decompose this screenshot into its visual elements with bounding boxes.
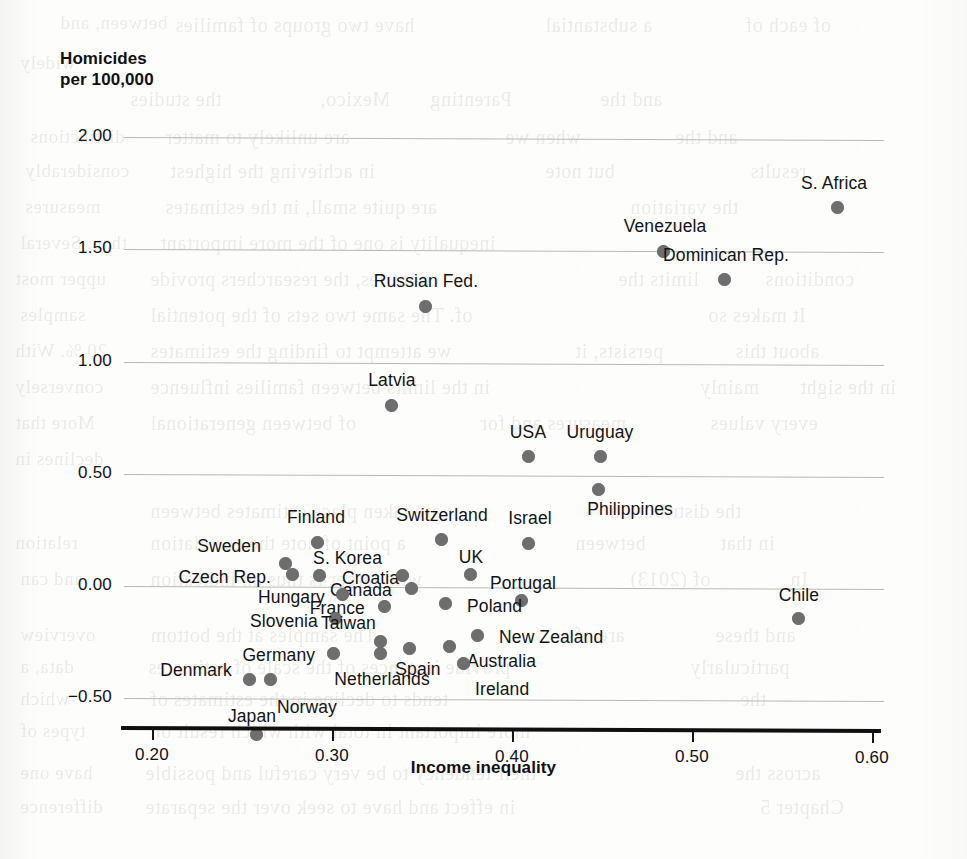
y-axis-tick-label: 0.00 <box>42 575 112 595</box>
data-point-label: Netherlands <box>334 669 429 690</box>
data-point-label: UK <box>459 547 484 568</box>
data-point-label: Uruguay <box>567 422 634 443</box>
chart-plot-area: Homicides per 100,000 2.001.501.000.500.… <box>0 0 967 859</box>
data-point <box>374 635 387 648</box>
data-point-label: Slovenia <box>250 611 318 632</box>
data-point-label: Sweden <box>197 536 261 557</box>
x-axis-tick-mark <box>692 731 694 742</box>
y-axis-tick-label: 0.50 <box>42 463 112 483</box>
data-point-label: Dominican Rep. <box>663 245 789 266</box>
gridline <box>124 362 884 366</box>
x-axis-tick-mark <box>152 729 154 740</box>
data-point-label: Philippines <box>587 499 673 520</box>
data-point <box>443 640 456 653</box>
data-point <box>313 569 326 582</box>
y-axis-tick-label: −0.50 <box>42 687 112 707</box>
data-point-label: Norway <box>277 697 337 718</box>
data-point-label: Chile <box>779 585 819 606</box>
data-point-label: USA <box>510 422 546 443</box>
data-point <box>378 600 391 613</box>
data-point-label: Japan <box>228 706 276 727</box>
data-point <box>327 647 340 660</box>
data-point <box>396 569 409 582</box>
y-axis-title-line1: Homicides <box>60 48 154 69</box>
x-axis-line <box>121 726 881 733</box>
data-point <box>385 399 398 412</box>
data-point <box>718 273 731 286</box>
y-axis-tick-label: 1.00 <box>42 351 112 371</box>
data-point <box>264 673 277 686</box>
data-point <box>439 597 452 610</box>
data-point-label: Germany <box>242 645 315 666</box>
data-point <box>435 533 448 546</box>
data-point <box>286 568 299 581</box>
data-point-label: Denmark <box>160 660 232 681</box>
x-axis-title: Income inequality <box>0 757 967 778</box>
data-point-label: Portugal <box>490 573 556 594</box>
data-point-label: Poland <box>467 596 522 617</box>
y-axis-tick-label: 2.00 <box>42 126 112 146</box>
scatter-plot-page: between, andhave two groups of familiesa… <box>0 0 967 859</box>
y-axis-title-line2: per 100,000 <box>60 69 154 90</box>
data-point <box>405 582 418 595</box>
data-point <box>792 612 805 625</box>
x-axis-tick-mark <box>332 730 334 741</box>
data-point-label: Australia <box>467 651 536 672</box>
data-point-label: Czech Rep. <box>179 567 271 588</box>
data-point <box>592 483 605 496</box>
gridline <box>124 137 884 141</box>
data-point <box>311 536 324 549</box>
data-point <box>374 647 387 660</box>
data-point <box>471 629 484 642</box>
data-point-label: Taiwan <box>321 613 376 634</box>
data-point <box>522 450 535 463</box>
data-point <box>243 673 256 686</box>
data-point <box>457 657 470 670</box>
data-point-label: Ireland <box>475 679 529 700</box>
data-point-label: Switzerland <box>396 505 488 526</box>
data-point <box>419 300 432 313</box>
data-point-label: Israel <box>508 508 551 529</box>
x-axis-tick-mark <box>512 731 514 742</box>
data-point <box>831 201 844 214</box>
data-point-label: S. Korea <box>313 548 382 569</box>
data-point <box>464 568 477 581</box>
data-point <box>522 537 535 550</box>
y-axis-tick-label: 1.50 <box>42 238 112 258</box>
data-point-label: Russian Fed. <box>374 271 478 292</box>
data-point-label: Latvia <box>368 370 415 391</box>
y-axis-title: Homicides per 100,000 <box>60 48 154 90</box>
data-point <box>594 450 607 463</box>
data-point-label: S. Africa <box>801 173 867 194</box>
gridline <box>124 474 884 478</box>
x-axis-tick-mark <box>872 732 874 743</box>
data-point-label: Venezuela <box>624 216 707 237</box>
data-point <box>403 642 416 655</box>
data-point-label: Finland <box>287 507 345 528</box>
data-point-label: New Zealand <box>499 627 603 648</box>
